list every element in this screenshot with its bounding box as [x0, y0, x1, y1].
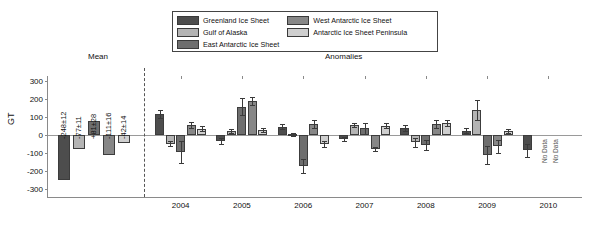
error-bar-cap — [280, 124, 285, 125]
error-bar-cap — [506, 133, 511, 134]
y-axis-tick-mark — [45, 99, 48, 100]
legend-item-east-antarctic: East Antarctic Ice Sheet — [177, 39, 279, 50]
x-axis-tick-mark — [303, 76, 304, 79]
error-bar — [252, 97, 253, 105]
error-bar-cap — [384, 123, 389, 124]
anomaly-bar — [400, 128, 409, 136]
legend-label-west-antarctic: West Antarctic Ice Sheet — [313, 16, 391, 25]
anomaly-bar — [472, 110, 481, 135]
anomaly-bar — [248, 101, 257, 135]
legend-swatch-gulf-of-alaska — [177, 28, 199, 37]
anomaly-bar — [432, 124, 441, 135]
mean-bar — [118, 135, 130, 143]
error-bar-cap — [525, 157, 530, 158]
error-bar-cap — [363, 134, 368, 135]
x-axis-tick-mark — [426, 76, 427, 79]
error-bar-cap — [485, 146, 490, 147]
x-axis-tick-label: 2005 — [233, 201, 251, 210]
error-bar-cap — [342, 137, 347, 138]
legend-label-gulf-of-alaska: Gulf of Alaska — [203, 28, 247, 37]
error-bar — [426, 140, 427, 150]
legend-column-left: Greenland Ice Sheet Gulf of Alaska East … — [177, 15, 279, 50]
anomaly-bar — [288, 134, 297, 136]
error-bar-cap — [312, 128, 317, 129]
error-bar-cap — [261, 132, 266, 133]
y-axis-tick-mark — [45, 171, 48, 172]
error-bar-cap — [352, 127, 357, 128]
error-bar — [527, 144, 528, 158]
error-bar-cap — [168, 146, 173, 147]
legend-item-gulf-of-alaska: Gulf of Alaska — [177, 27, 279, 38]
error-bar-cap — [312, 120, 317, 121]
legend-label-greenland: Greenland Ice Sheet — [203, 16, 269, 25]
legend-swatch-greenland — [177, 16, 199, 25]
error-bar-cap — [229, 133, 234, 134]
mean-value-label: -77±11 — [74, 116, 83, 139]
anomaly-bar — [493, 135, 502, 146]
error-bar — [282, 124, 283, 129]
error-bar-cap — [403, 131, 408, 132]
error-bar-cap — [373, 147, 378, 148]
mean-value-label: -111±16 — [104, 113, 113, 139]
error-bar-cap — [322, 147, 327, 148]
y-axis-tick-mark — [45, 81, 48, 82]
error-bar — [231, 129, 232, 133]
anomaly-bar — [216, 135, 225, 141]
error-bar — [375, 147, 376, 151]
error-bar — [263, 128, 264, 132]
anomaly-bar — [309, 124, 318, 135]
error-bar — [508, 129, 509, 133]
error-bar-cap — [434, 128, 439, 129]
error-bar-cap — [464, 128, 469, 129]
error-bar — [415, 138, 416, 147]
x-axis-tick-mark — [487, 76, 488, 79]
error-bar-cap — [445, 126, 450, 127]
error-bar — [365, 123, 366, 134]
error-bar — [221, 138, 222, 144]
anomaly-bar — [523, 135, 532, 150]
error-bar — [160, 110, 161, 118]
error-bar — [293, 133, 294, 136]
legend-item-greenland: Greenland Ice Sheet — [177, 15, 279, 26]
error-bar-cap — [496, 153, 501, 154]
error-bar-cap — [179, 163, 184, 164]
error-bar-cap — [434, 120, 439, 121]
anomaly-bar — [166, 135, 175, 144]
x-axis-tick-label: 2004 — [172, 201, 190, 210]
error-bar-cap — [250, 105, 255, 106]
error-bar-cap — [250, 97, 255, 98]
error-bar-cap — [352, 123, 357, 124]
error-bar-cap — [200, 131, 205, 132]
mean-bar — [103, 135, 115, 155]
anomaly-bar — [278, 127, 287, 135]
error-bar-cap — [219, 138, 224, 139]
plot-area: 3002001000-100-200-300-248±12-77±11+81±2… — [47, 76, 582, 198]
error-bar-cap — [485, 164, 490, 165]
error-bar-cap — [506, 129, 511, 130]
legend-label-peninsula: Antarctic Ice Sheet Peninsula — [313, 28, 407, 37]
error-bar-cap — [413, 138, 418, 139]
error-bar — [477, 100, 478, 120]
anomaly-bar — [258, 130, 267, 135]
error-bar — [181, 141, 182, 163]
anomaly-bar — [381, 126, 390, 135]
section-header-mean: Mean — [88, 52, 108, 61]
x-axis-tick-label: 2007 — [356, 201, 374, 210]
error-bar — [447, 120, 448, 125]
error-bar-cap — [496, 140, 501, 141]
anomaly-bar — [360, 128, 369, 135]
error-bar — [314, 120, 315, 127]
error-bar — [498, 140, 499, 153]
error-bar — [303, 159, 304, 173]
x-axis-tick-mark — [548, 76, 549, 79]
error-bar-cap — [291, 136, 296, 137]
mean-bar — [58, 135, 70, 179]
error-bar-cap — [200, 126, 205, 127]
legend-column-right: West Antarctic Ice Sheet Antarctic Ice S… — [287, 15, 407, 50]
error-bar-cap — [301, 159, 306, 160]
anomaly-bar — [411, 135, 420, 142]
error-bar — [405, 125, 406, 131]
error-bar-cap — [475, 100, 480, 101]
anomaly-bar — [504, 131, 513, 135]
error-bar-cap — [291, 133, 296, 134]
